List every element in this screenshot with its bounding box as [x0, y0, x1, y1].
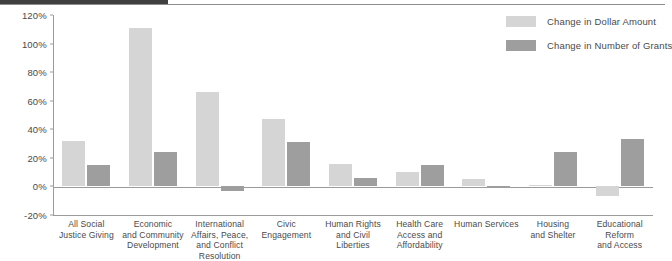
header-rule — [0, 4, 665, 5]
y-axis-tick-mark — [50, 186, 53, 187]
bar — [129, 28, 152, 187]
bar — [154, 152, 177, 186]
bar — [354, 178, 377, 187]
y-axis-tick-label: 60% — [27, 95, 47, 106]
bar — [529, 185, 552, 186]
y-axis-tick-mark — [50, 100, 53, 101]
bar — [62, 141, 85, 187]
bar — [421, 165, 444, 186]
y-axis-tick-label: 20% — [27, 152, 47, 163]
legend-label-dollar-amount: Change in Dollar Amount — [547, 16, 656, 27]
y-axis-tick-mark — [50, 15, 53, 16]
bar — [487, 186, 510, 187]
bar — [329, 164, 352, 187]
bar — [196, 92, 219, 186]
legend-swatch-number-of-grants — [506, 40, 536, 51]
bar — [596, 186, 619, 196]
chart-legend: Change in Dollar Amount Change in Number… — [506, 12, 672, 60]
legend-label-number-of-grants: Change in Number of Grants — [547, 40, 672, 51]
y-axis-tick-label: 120% — [22, 10, 47, 21]
bar — [396, 172, 419, 186]
x-axis-line — [53, 215, 653, 216]
bar — [554, 152, 577, 186]
x-axis-label: EducationalReformand Access — [580, 219, 659, 251]
y-axis-tick-mark — [50, 215, 53, 216]
y-axis-tick-mark — [50, 43, 53, 44]
bar — [87, 165, 110, 186]
y-axis-tick-mark — [50, 157, 53, 158]
bar — [262, 119, 285, 186]
y-axis-tick-mark — [50, 72, 53, 73]
bar — [287, 142, 310, 186]
bar — [462, 179, 485, 186]
zero-baseline — [53, 187, 653, 188]
y-axis-tick-label: 100% — [22, 38, 47, 49]
y-axis-tick-label: 40% — [27, 124, 47, 135]
bar — [221, 186, 244, 190]
y-axis-tick-mark — [50, 129, 53, 130]
y-axis-tick-label: 0% — [33, 181, 47, 192]
legend-item-number-of-grants: Change in Number of Grants — [506, 36, 672, 54]
legend-swatch-dollar-amount — [506, 16, 536, 27]
y-axis-tick-label: -20% — [24, 210, 47, 221]
bar — [621, 139, 644, 186]
y-axis-line — [53, 15, 54, 215]
y-axis-tick-label: 80% — [27, 67, 47, 78]
legend-item-dollar-amount: Change in Dollar Amount — [506, 12, 672, 30]
